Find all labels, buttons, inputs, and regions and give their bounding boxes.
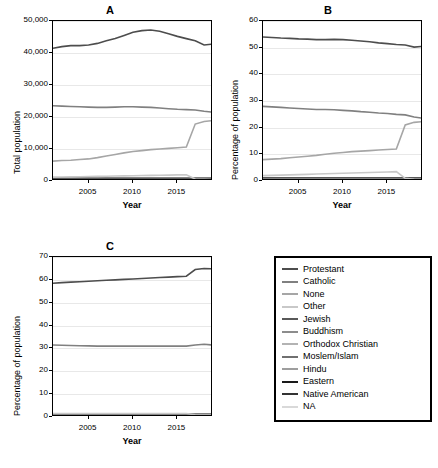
y-tick-label: 10,000	[12, 143, 48, 152]
series-line	[53, 344, 212, 346]
y-tick-label: 40	[222, 68, 258, 77]
legend-swatch-icon	[282, 306, 298, 308]
x-tick-mark	[176, 416, 177, 419]
chart-legend: ProtestantCatholicNoneOtherJewishBuddhis…	[274, 256, 432, 422]
legend-item[interactable]: Catholic	[276, 276, 430, 289]
y-tick-mark	[259, 180, 262, 181]
y-tick-mark	[49, 256, 52, 257]
x-tick-label: 2010	[327, 187, 357, 196]
x-tick-mark	[342, 180, 343, 183]
x-tick-mark	[132, 416, 133, 419]
legend-swatch-icon	[282, 368, 298, 370]
legend-swatch-icon	[282, 406, 298, 408]
panel-b: B Percentage of population Year 01020304…	[218, 4, 438, 219]
y-tick-label: 30	[12, 342, 48, 351]
y-tick-mark	[259, 73, 262, 74]
series-line	[263, 37, 422, 47]
legend-swatch-icon	[282, 331, 298, 333]
legend-item-label: Other	[303, 302, 326, 311]
x-tick-label: 2015	[161, 187, 191, 196]
x-tick-mark	[132, 180, 133, 183]
y-tick-label: 10	[222, 148, 258, 157]
legend-swatch-icon	[282, 281, 298, 283]
series-line	[53, 106, 212, 112]
legend-swatch-icon	[282, 343, 298, 345]
series-line	[53, 268, 212, 283]
x-tick-label: 2005	[283, 187, 313, 196]
y-tick-mark	[49, 393, 52, 394]
y-tick-mark	[49, 20, 52, 21]
series-container	[263, 21, 422, 180]
y-tick-mark	[259, 100, 262, 101]
legend-item[interactable]: Eastern	[276, 376, 430, 389]
legend-item[interactable]: Buddhism	[276, 326, 430, 339]
y-tick-mark	[49, 52, 52, 53]
x-tick-label: 2010	[117, 187, 147, 196]
x-tick-label: 2005	[73, 187, 103, 196]
y-tick-label: 20	[222, 122, 258, 131]
legend-swatch-icon	[282, 381, 298, 383]
x-tick-mark	[88, 416, 89, 419]
legend-item[interactable]: Jewish	[276, 313, 430, 326]
legend-item[interactable]: NA	[276, 401, 430, 414]
panel-c-plot	[52, 256, 212, 416]
y-tick-mark	[49, 325, 52, 326]
legend-item[interactable]: Hindu	[276, 363, 430, 376]
legend-item-label: Eastern	[303, 377, 334, 386]
y-tick-label: 50	[12, 297, 48, 306]
series-line	[263, 106, 422, 118]
y-tick-label: 60	[222, 15, 258, 24]
legend-item-label: Moslem/Islam	[303, 352, 359, 361]
y-tick-mark	[49, 279, 52, 280]
panel-c-xlabel: Year	[52, 436, 212, 446]
x-tick-label: 2005	[73, 423, 103, 432]
series-line	[53, 121, 212, 162]
legend-item-label: Jewish	[303, 315, 331, 324]
x-tick-mark	[88, 180, 89, 183]
legend-swatch-icon	[282, 318, 298, 320]
legend-item-label: NA	[303, 402, 316, 411]
y-tick-label: 50,000	[12, 15, 48, 24]
y-tick-label: 50	[222, 42, 258, 51]
panel-a: A Total population Year 010,00020,00030,…	[0, 4, 220, 219]
y-tick-label: 0	[222, 175, 258, 184]
y-tick-label: 30,000	[12, 79, 48, 88]
legend-item-label: Native American	[303, 390, 369, 399]
legend-item-label: Orthodox Christian	[303, 340, 378, 349]
panel-c: C Percentage of population Year 01020304…	[0, 240, 220, 455]
y-tick-label: 10	[12, 388, 48, 397]
y-tick-mark	[49, 370, 52, 371]
panel-a-xlabel: Year	[52, 200, 212, 210]
y-tick-label: 30	[222, 95, 258, 104]
panel-b-plot	[262, 20, 422, 180]
y-tick-mark	[49, 416, 52, 417]
y-tick-label: 60	[12, 274, 48, 283]
legend-item[interactable]: None	[276, 288, 430, 301]
y-tick-label: 70	[12, 251, 48, 260]
y-tick-label: 0	[12, 411, 48, 420]
y-tick-mark	[49, 116, 52, 117]
legend-item-label: Buddhism	[303, 327, 343, 336]
legend-item[interactable]: Native American	[276, 388, 430, 401]
panel-a-plot	[52, 20, 212, 180]
legend-item-label: Protestant	[303, 265, 344, 274]
y-tick-label: 40,000	[12, 47, 48, 56]
series-container	[53, 257, 212, 416]
legend-item[interactable]: Other	[276, 301, 430, 314]
series-line	[53, 30, 212, 48]
y-tick-mark	[259, 153, 262, 154]
y-tick-mark	[259, 47, 262, 48]
y-tick-label: 0	[12, 175, 48, 184]
series-container	[53, 21, 212, 180]
y-tick-mark	[49, 180, 52, 181]
x-tick-mark	[176, 180, 177, 183]
y-tick-mark	[259, 127, 262, 128]
y-tick-mark	[49, 148, 52, 149]
x-tick-mark	[386, 180, 387, 183]
y-tick-label: 40	[12, 320, 48, 329]
panel-b-xlabel: Year	[262, 200, 422, 210]
legend-item[interactable]: Protestant	[276, 263, 430, 276]
y-tick-mark	[49, 84, 52, 85]
legend-item[interactable]: Orthodox Christian	[276, 338, 430, 351]
legend-item[interactable]: Moslem/Islam	[276, 351, 430, 364]
